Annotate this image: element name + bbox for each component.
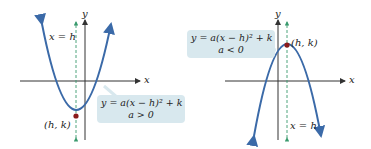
right-equation-callout: y = a(x − h)² + k a < 0: [187, 30, 275, 58]
right-x-axis-label: x: [349, 75, 355, 85]
right-vertex-label: (h, k): [291, 38, 318, 48]
left-vertex-point: [73, 113, 78, 118]
left-x-axis-label: x: [144, 75, 150, 85]
left-equation-callout: y = a(x − h)² + k a > 0: [97, 95, 185, 123]
left-symmetry-label: x = h: [49, 32, 76, 42]
right-symmetry-label: x = h: [290, 121, 317, 131]
right-equation: y = a(x − h)² + k: [191, 32, 271, 44]
left-vertex-label: (h, k): [44, 120, 71, 130]
right-vertex-point: [284, 42, 289, 47]
left-equation: y = a(x − h)² + k: [101, 97, 181, 109]
left-y-axis-label: y: [82, 9, 88, 19]
left-condition: a > 0: [101, 109, 181, 121]
right-condition: a < 0: [191, 44, 271, 56]
right-y-axis-label: y: [275, 9, 281, 19]
